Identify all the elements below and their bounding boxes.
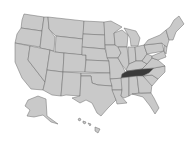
state-south-dakota[interactable] [82,34,105,49]
state-hawaii-3[interactable] [88,123,91,126]
map-caption [4,138,191,146]
state-wyoming[interactable] [55,36,83,55]
state-new-mexico[interactable] [61,72,81,96]
state-hawaii-4[interactable] [95,127,100,133]
state-mississippi[interactable] [121,77,129,98]
hawaii [78,118,100,133]
state-new-england[interactable] [166,16,184,40]
state-florida[interactable] [132,93,159,114]
us-map [0,0,195,146]
alaska [25,96,58,124]
state-alaska[interactable] [25,96,58,124]
state-utah[interactable] [47,50,64,72]
state-wisconsin[interactable] [114,30,128,47]
state-north-dakota[interactable] [83,21,105,35]
state-colorado[interactable] [63,53,86,72]
state-kansas[interactable] [85,60,110,73]
state-nebraska[interactable] [82,47,109,61]
state-hawaii-2[interactable] [83,121,86,124]
state-hawaii-1[interactable] [78,118,81,121]
